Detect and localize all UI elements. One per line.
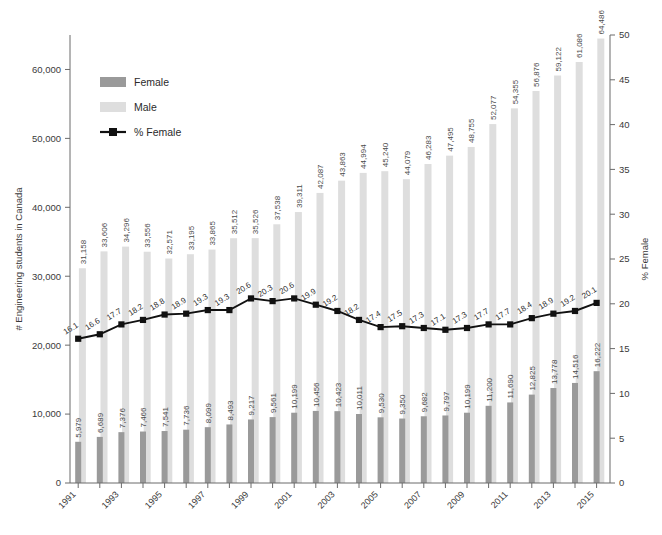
male-value-label: 33,865 (208, 221, 217, 246)
male-value-label: 42,087 (316, 164, 325, 189)
percent-female-marker (226, 307, 232, 313)
female-value-label: 9,797 (442, 391, 451, 412)
female-value-label: 9,530 (377, 393, 386, 414)
female-bar (399, 419, 405, 483)
male-value-label: 31,158 (79, 239, 88, 264)
female-bar (248, 419, 254, 483)
y-axis-right-tick-label: 30 (619, 209, 630, 220)
y-axis-left-tick-label: 60,000 (32, 64, 61, 75)
y-axis-right-tick-label: 15 (619, 343, 630, 354)
legend-item-label: Male (134, 101, 157, 113)
percent-female-marker (442, 327, 448, 333)
y-axis-left-tick-label: 50,000 (32, 133, 61, 144)
percent-female-marker (313, 302, 319, 308)
y-axis-right-tick-label: 5 (619, 433, 624, 444)
male-value-label: 35,512 (230, 209, 239, 234)
percent-female-marker (97, 331, 103, 337)
female-value-label: 9,561 (269, 393, 278, 414)
male-value-label: 35,526 (251, 209, 260, 234)
female-value-label: 12,825 (528, 366, 537, 391)
female-value-label: 13,778 (550, 359, 559, 384)
female-bar (334, 411, 340, 483)
female-value-label: 10,199 (290, 384, 299, 409)
male-value-label: 64,486 (597, 10, 606, 35)
female-bar (140, 432, 146, 483)
female-bar (313, 411, 319, 483)
y-axis-right-tick-label: 25 (619, 253, 630, 264)
male-value-label: 34,296 (122, 218, 131, 243)
female-bar (205, 427, 211, 483)
y-axis-left-title: # Engineering students in Canada (13, 187, 24, 331)
female-bar (270, 417, 276, 483)
female-bar (486, 406, 492, 483)
male-value-label: 54,355 (511, 79, 520, 104)
male-value-label: 44,079 (403, 150, 412, 175)
female-value-label: 10,011 (355, 386, 364, 410)
female-value-label: 9,682 (420, 392, 429, 413)
female-bar (118, 432, 124, 483)
percent-female-marker (140, 317, 146, 323)
male-value-label: 61,086 (575, 33, 584, 58)
female-value-label: 16,222 (593, 342, 602, 367)
legend-swatch (100, 77, 126, 87)
female-value-label: 14,516 (571, 354, 580, 379)
percent-female-marker (162, 311, 168, 317)
male-value-label: 33,606 (100, 222, 109, 247)
legend-item-label: Female (134, 76, 169, 88)
female-bar (378, 417, 384, 483)
percent-female-marker (507, 321, 513, 327)
female-value-label: 5,979 (74, 417, 83, 438)
female-value-label: 8,493 (226, 400, 235, 421)
female-bar (572, 383, 578, 483)
legend-marker-icon (109, 128, 117, 136)
female-bar (594, 371, 600, 483)
male-value-label: 33,556 (143, 223, 152, 248)
male-value-label: 44,994 (359, 144, 368, 169)
female-bar (550, 388, 556, 483)
percent-female-marker (75, 336, 81, 342)
male-value-label: 39,311 (295, 184, 304, 208)
chart-container: 31,15833,60634,29633,55632,57133,19533,8… (0, 0, 662, 535)
male-value-label: 45,240 (381, 142, 390, 167)
female-value-label: 7,736 (182, 405, 191, 426)
male-value-label: 33,195 (187, 225, 196, 250)
female-bar (507, 402, 513, 483)
male-value-label: 48,755 (467, 118, 476, 143)
male-value-label: 56,876 (532, 62, 541, 87)
female-value-label: 8,099 (204, 403, 213, 424)
y-axis-right-tick-label: 45 (619, 74, 630, 85)
female-bar (291, 413, 297, 483)
female-bar (226, 424, 232, 483)
legend-swatch (100, 102, 126, 112)
male-value-label: 52,077 (489, 95, 498, 120)
percent-female-marker (356, 317, 362, 323)
y-axis-left-tick-label: 30,000 (32, 271, 61, 282)
female-bar (464, 413, 470, 483)
percent-female-marker (118, 321, 124, 327)
female-value-label: 10,423 (334, 382, 343, 407)
female-bar (421, 416, 427, 483)
female-bar (356, 414, 362, 483)
male-value-label: 37,538 (273, 195, 282, 220)
percent-female-marker (248, 295, 254, 301)
y-axis-right-tick-label: 10 (619, 388, 630, 399)
female-value-label: 11,200 (485, 377, 494, 401)
female-value-label: 11,690 (506, 374, 515, 398)
y-axis-right-tick-label: 20 (619, 298, 630, 309)
female-value-label: 7,376 (118, 408, 127, 429)
male-value-label: 59,122 (554, 46, 563, 71)
female-bar (75, 442, 81, 483)
percent-female-marker (529, 315, 535, 321)
y-axis-right-tick-label: 35 (619, 164, 630, 175)
percent-female-marker (550, 311, 556, 317)
female-value-label: 10,199 (463, 384, 472, 409)
male-value-label: 47,495 (446, 127, 455, 152)
percent-female-marker (183, 311, 189, 317)
male-value-label: 32,571 (165, 229, 174, 254)
female-value-label: 9,217 (247, 395, 256, 416)
y-axis-left-tick-label: 10,000 (32, 408, 61, 419)
percent-female-marker (572, 308, 578, 314)
female-bar (529, 395, 535, 483)
percent-female-marker (291, 295, 297, 301)
percent-female-marker (399, 323, 405, 329)
